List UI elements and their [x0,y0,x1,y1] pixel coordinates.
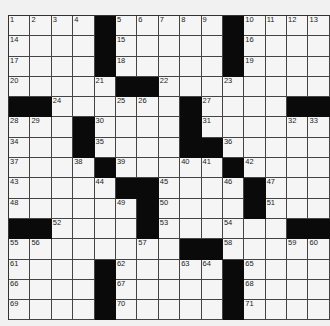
grid-cell[interactable] [30,260,51,280]
grid-cell[interactable] [287,138,308,158]
grid-cell[interactable] [159,117,180,137]
grid-cell[interactable] [308,158,329,178]
grid-cell[interactable] [266,117,287,137]
grid-cell[interactable] [308,300,329,320]
grid-cell[interactable] [308,260,329,280]
grid-cell[interactable]: 2 [30,16,51,36]
grid-cell[interactable]: 11 [266,16,287,36]
grid-cell[interactable] [52,280,73,300]
grid-cell[interactable]: 57 [137,239,158,259]
grid-cell[interactable]: 9 [202,16,223,36]
grid-cell[interactable]: 38 [73,158,94,178]
grid-cell[interactable]: 70 [116,300,137,320]
grid-cell[interactable] [159,280,180,300]
grid-cell[interactable] [266,57,287,77]
grid-cell[interactable] [73,260,94,280]
grid-cell[interactable] [244,239,265,259]
grid-cell[interactable] [52,300,73,320]
grid-cell[interactable] [202,199,223,219]
grid-cell[interactable] [30,77,51,97]
grid-cell[interactable]: 1 [9,16,30,36]
grid-cell[interactable]: 51 [266,199,287,219]
grid-cell[interactable]: 64 [202,260,223,280]
grid-cell[interactable] [244,219,265,239]
grid-cell[interactable] [266,219,287,239]
grid-cell[interactable] [30,158,51,178]
grid-cell[interactable]: 62 [116,260,137,280]
grid-cell[interactable] [159,158,180,178]
grid-cell[interactable]: 15 [116,36,137,56]
grid-cell[interactable] [287,36,308,56]
grid-cell[interactable] [287,199,308,219]
grid-cell[interactable] [52,260,73,280]
grid-cell[interactable]: 68 [244,280,265,300]
grid-cell[interactable] [244,77,265,97]
grid-cell[interactable] [95,239,116,259]
grid-cell[interactable] [287,300,308,320]
grid-cell[interactable] [244,138,265,158]
grid-cell[interactable] [180,300,201,320]
grid-cell[interactable] [244,97,265,117]
grid-cell[interactable]: 37 [9,158,30,178]
grid-cell[interactable]: 28 [9,117,30,137]
grid-cell[interactable]: 50 [159,199,180,219]
grid-cell[interactable]: 71 [244,300,265,320]
grid-cell[interactable] [159,36,180,56]
grid-cell[interactable] [159,138,180,158]
grid-cell[interactable] [73,300,94,320]
grid-cell[interactable] [52,239,73,259]
grid-cell[interactable]: 55 [9,239,30,259]
grid-cell[interactable] [137,300,158,320]
grid-cell[interactable]: 16 [244,36,265,56]
grid-cell[interactable] [180,57,201,77]
grid-cell[interactable]: 45 [159,178,180,198]
grid-cell[interactable]: 47 [266,178,287,198]
grid-cell[interactable]: 65 [244,260,265,280]
grid-cell[interactable]: 69 [9,300,30,320]
grid-cell[interactable]: 14 [9,36,30,56]
grid-cell[interactable]: 56 [30,239,51,259]
grid-cell[interactable] [73,280,94,300]
grid-cell[interactable] [137,158,158,178]
grid-cell[interactable]: 48 [9,199,30,219]
grid-cell[interactable] [116,117,137,137]
grid-cell[interactable] [180,178,201,198]
grid-cell[interactable] [287,280,308,300]
grid-cell[interactable] [73,57,94,77]
grid-cell[interactable] [308,57,329,77]
grid-cell[interactable] [308,199,329,219]
grid-cell[interactable] [116,138,137,158]
grid-cell[interactable] [159,260,180,280]
grid-cell[interactable] [159,300,180,320]
grid-cell[interactable]: 49 [116,199,137,219]
grid-cell[interactable] [116,239,137,259]
grid-cell[interactable] [73,239,94,259]
grid-cell[interactable] [52,158,73,178]
grid-cell[interactable] [30,199,51,219]
grid-cell[interactable] [244,117,265,137]
grid-cell[interactable] [52,138,73,158]
grid-cell[interactable] [202,178,223,198]
grid-cell[interactable] [137,260,158,280]
grid-cell[interactable]: 22 [159,77,180,97]
grid-cell[interactable] [266,97,287,117]
grid-cell[interactable] [180,199,201,219]
grid-cell[interactable]: 24 [52,97,73,117]
grid-cell[interactable] [287,158,308,178]
grid-cell[interactable]: 25 [116,97,137,117]
grid-cell[interactable] [52,57,73,77]
grid-cell[interactable]: 17 [9,57,30,77]
grid-cell[interactable] [73,219,94,239]
grid-cell[interactable] [202,219,223,239]
grid-cell[interactable] [202,77,223,97]
grid-cell[interactable] [95,219,116,239]
grid-cell[interactable]: 10 [244,16,265,36]
grid-cell[interactable] [287,57,308,77]
grid-cell[interactable]: 12 [287,16,308,36]
grid-cell[interactable] [30,57,51,77]
grid-cell[interactable]: 66 [9,280,30,300]
grid-cell[interactable] [30,36,51,56]
grid-cell[interactable]: 6 [137,16,158,36]
grid-cell[interactable] [308,178,329,198]
grid-cell[interactable] [308,36,329,56]
